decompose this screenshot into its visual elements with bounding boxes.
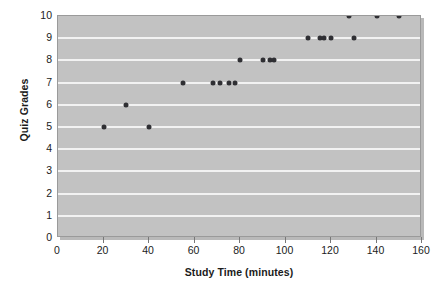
x-tick-label-100: 100 [265,245,305,257]
data-point [101,125,106,130]
data-point [322,36,327,41]
data-point [233,80,238,85]
y-axis-tick-labels: 012345678910 [26,0,52,260]
x-tick-mark-40 [148,237,149,243]
data-point [347,15,352,19]
x-tick-label-40: 40 [128,245,168,257]
x-tick-label-60: 60 [174,245,214,257]
x-tick-label-80: 80 [219,245,259,257]
x-tick-mark-160 [421,237,422,243]
x-tick-mark-120 [330,237,331,243]
y-tick-label-1: 1 [26,210,52,221]
x-tick-label-140: 140 [356,245,396,257]
y-tick-label-4: 4 [26,143,52,154]
x-tick-mark-60 [194,237,195,243]
scatter-plot-figure: Quiz Grades 012345678910 020406080100120… [0,0,444,297]
y-tick-label-3: 3 [26,165,52,176]
x-tick-mark-20 [103,237,104,243]
x-tick-label-160: 160 [401,245,441,257]
gridline-y-3 [58,170,420,172]
data-point [260,58,265,63]
x-tick-label-20: 20 [83,245,123,257]
x-axis-title: Study Time (minutes) [57,266,421,278]
y-tick-label-0: 0 [26,232,52,243]
x-axis-tick-marks [57,237,421,243]
y-tick-label-7: 7 [26,76,52,87]
data-point [217,80,222,85]
x-tick-mark-80 [239,237,240,243]
gridline-y-1 [58,215,420,217]
data-point [210,80,215,85]
data-point [181,80,186,85]
y-tick-label-8: 8 [26,54,52,65]
data-point [306,36,311,41]
x-tick-mark-140 [376,237,377,243]
data-point [397,15,402,19]
data-point [226,80,231,85]
gridline-y-5 [58,126,420,128]
y-tick-label-6: 6 [26,99,52,110]
y-tick-label-2: 2 [26,187,52,198]
x-tick-label-0: 0 [37,245,77,257]
data-point [351,36,356,41]
gridline-y-9 [58,37,420,39]
plot-area [57,15,421,237]
data-point [238,58,243,63]
y-tick-label-9: 9 [26,32,52,43]
data-point [124,102,129,107]
gridline-y-6 [58,104,420,106]
x-tick-mark-100 [285,237,286,243]
gridline-y-7 [58,82,420,84]
x-tick-label-120: 120 [310,245,350,257]
data-point [147,125,152,130]
gridline-y-4 [58,148,420,150]
y-tick-label-10: 10 [26,10,52,21]
data-point [374,15,379,19]
y-tick-label-5: 5 [26,121,52,132]
data-point [329,36,334,41]
gridline-y-2 [58,193,420,195]
x-axis-tick-labels: 020406080100120140160 [57,245,421,259]
data-point [272,58,277,63]
